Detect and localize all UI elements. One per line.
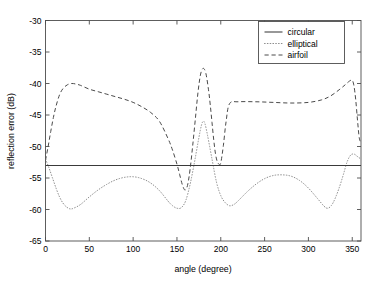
y-tick-label: -45: [29, 110, 42, 120]
legend-label-elliptical: elliptical: [288, 39, 318, 49]
x-tick-label: 150: [170, 244, 184, 254]
x-tick-label: 100: [126, 244, 140, 254]
legend-label-airfoil: airfoil: [288, 50, 308, 60]
y-axis-title: reflection error (dB): [6, 93, 16, 169]
x-tick-label: 350: [345, 244, 359, 254]
chart-legend: circularellipticalairfoil: [259, 22, 345, 64]
x-tick-label: 300: [301, 244, 315, 254]
y-tick-label: -50: [29, 142, 42, 152]
y-tick-label: -30: [29, 16, 42, 26]
x-tick-label: 0: [43, 244, 48, 254]
y-tick-label: -55: [29, 173, 42, 183]
figure-canvas: 050100150200250300350 -65-60-55-50-45-40…: [0, 0, 373, 283]
x-tick-label: 200: [214, 244, 228, 254]
y-tick-label: -60: [29, 205, 42, 215]
reflection-error-line-chart: 050100150200250300350 -65-60-55-50-45-40…: [0, 0, 373, 283]
x-tick-label: 50: [85, 244, 95, 254]
y-tick-label: -40: [29, 79, 42, 89]
x-axis-title: angle (degree): [174, 264, 231, 274]
x-tick-label: 250: [258, 244, 272, 254]
y-tick-label: -35: [29, 47, 42, 57]
legend-label-circular: circular: [288, 27, 316, 37]
y-tick-label: -65: [29, 236, 42, 246]
